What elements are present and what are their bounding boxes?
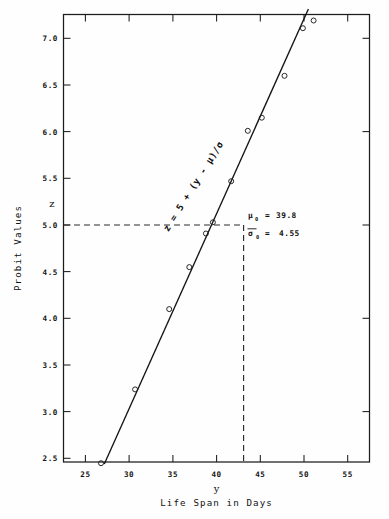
- probit-fit-line: [104, 9, 308, 464]
- mu-estimate-annotation: μ 0 = 39.8: [248, 211, 297, 222]
- data-points: [99, 18, 317, 466]
- y-tick-labels: 7.0 6.5 6.0 5.5 5.0 4.5 4.0 3.5 3.0 2.5: [42, 34, 58, 463]
- x-axis-title: Life Span in Days: [160, 497, 273, 508]
- x-tick-label: 40: [211, 470, 221, 479]
- data-point: [282, 73, 287, 78]
- plot-frame: [64, 15, 370, 463]
- sigma-subscript: 0: [256, 234, 260, 240]
- mu-symbol: μ: [248, 211, 253, 220]
- y-tick-label: 5.5: [42, 174, 58, 183]
- y-tick-label: 3.0: [42, 408, 58, 417]
- y-tick-label: 6.0: [42, 128, 58, 137]
- data-point: [187, 265, 192, 270]
- data-point: [300, 26, 305, 31]
- probit-chart-figure: 7.0 6.5 6.0 5.5 5.0 4.5 4.0 3.5 3.0 2.5 …: [0, 0, 389, 519]
- y-tick-label: 2.5: [42, 454, 58, 463]
- y-tick-label: 4.0: [42, 314, 58, 323]
- x-tick-marks-top: [85, 15, 347, 22]
- y-tick-label: 6.5: [42, 81, 58, 90]
- y-tick-marks: [64, 38, 71, 458]
- x-tick-label: 55: [343, 470, 353, 479]
- mu-equals: =: [265, 211, 270, 220]
- y-tick-label: 7.0: [42, 34, 58, 43]
- y-tick-label: 4.5: [42, 268, 58, 277]
- x-variable-label: y: [213, 483, 220, 494]
- sigma-value: 4.55: [279, 229, 300, 238]
- y-tick-label: 3.5: [42, 361, 58, 370]
- x-tick-labels: 25 30 35 40 45 50 55: [80, 470, 353, 479]
- x-tick-label: 25: [80, 470, 90, 479]
- y-tick-label: 5.0: [42, 221, 58, 230]
- y-tick-marks-right: [363, 38, 370, 411]
- sigma-equals: =: [265, 229, 270, 238]
- data-point: [311, 18, 316, 23]
- mu-subscript: 0: [255, 216, 259, 222]
- data-point: [167, 307, 172, 312]
- sigma-symbol: σ: [248, 229, 253, 238]
- equation-annotation: z = 5 + (y - μ)/σ: [161, 139, 226, 233]
- x-tick-label: 35: [168, 470, 178, 479]
- mu-value: 39.8: [276, 211, 297, 220]
- x-tick-label: 50: [299, 470, 309, 479]
- data-point: [245, 128, 250, 133]
- data-point: [133, 387, 138, 392]
- x-tick-label: 30: [124, 470, 134, 479]
- y-variable-label: z: [49, 198, 54, 209]
- chart-svg: 7.0 6.5 6.0 5.5 5.0 4.5 4.0 3.5 3.0 2.5 …: [0, 0, 389, 519]
- sigma-estimate-annotation: σ 0 = 4.55: [248, 229, 300, 240]
- y-axis-title: Probit Values: [12, 205, 23, 291]
- x-tick-label: 45: [255, 470, 265, 479]
- x-tick-marks: [85, 455, 347, 462]
